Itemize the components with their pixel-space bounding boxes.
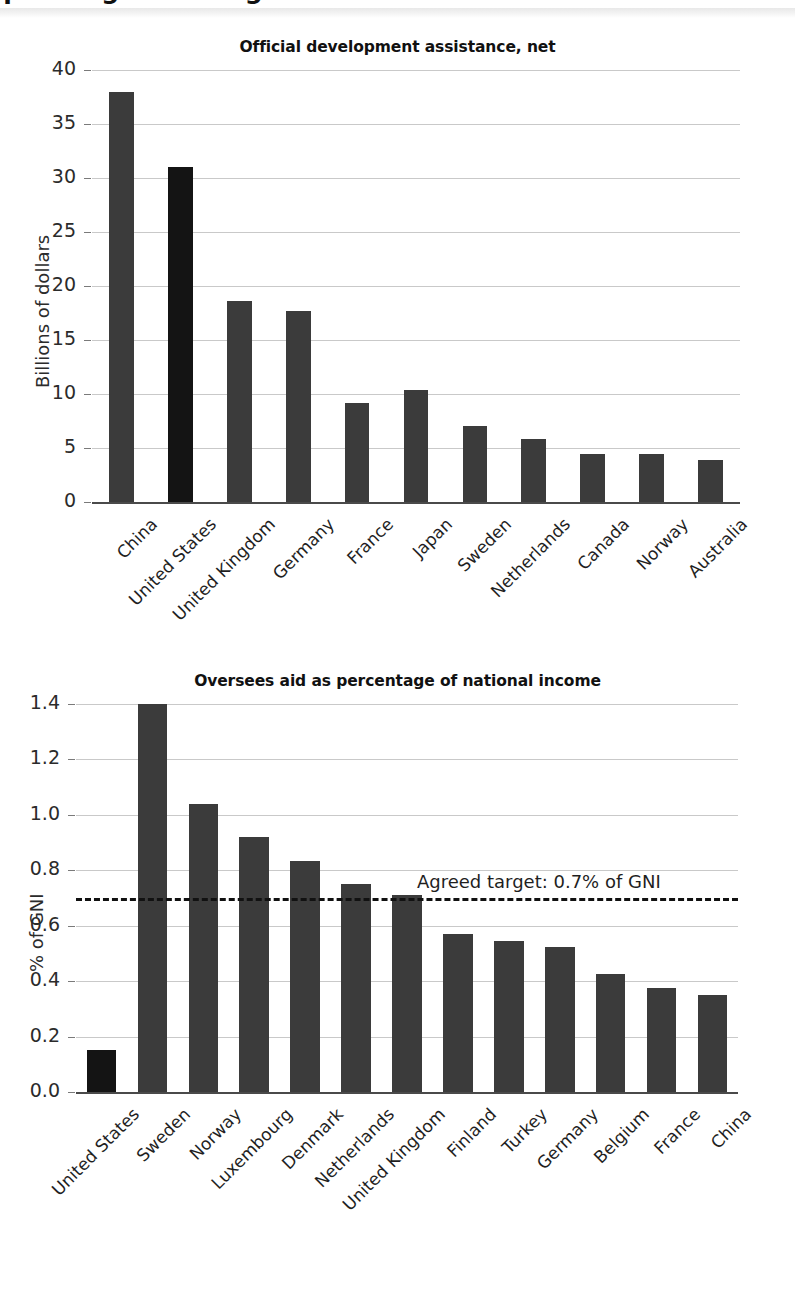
chart-overseas-aid-percentage: Oversees aid as percentage of national i… — [0, 672, 795, 1282]
y-axis-tick-mark — [84, 448, 91, 449]
y-axis-tick-label: 10 — [14, 381, 76, 403]
bar — [443, 934, 473, 1092]
bar — [109, 92, 134, 502]
y-axis-tick-mark — [84, 70, 91, 71]
gridline — [92, 70, 740, 71]
y-axis-tick-mark — [68, 704, 75, 705]
chart-page: Spending on Foreign Aid Official develop… — [0, 0, 795, 1291]
chart-official-development-assistance: Official development assistance, net Bil… — [0, 38, 795, 638]
bar — [392, 895, 422, 1092]
bar — [647, 988, 677, 1092]
y-axis-tick-label: 1.2 — [0, 746, 60, 768]
gridline — [92, 124, 740, 125]
bar — [698, 995, 728, 1092]
y-axis-tick-mark — [68, 1037, 75, 1038]
bar — [345, 403, 370, 502]
chart-2-title: Oversees aid as percentage of national i… — [0, 672, 795, 690]
chart-2-plot-area: 0.00.20.40.60.81.01.21.4United StatesSwe… — [76, 704, 738, 1092]
target-reference-line — [76, 898, 738, 901]
y-axis-tick-mark — [68, 870, 75, 871]
y-axis-tick-label: 0.4 — [0, 968, 60, 990]
y-axis-tick-label: 40 — [14, 57, 76, 79]
bar — [341, 884, 371, 1092]
target-annotation-label: Agreed target: 0.7% of GNI — [417, 871, 661, 892]
bar — [239, 837, 269, 1092]
y-axis-tick-label: 5 — [14, 435, 76, 457]
bar — [463, 426, 488, 502]
gridline — [76, 704, 738, 705]
bar — [580, 454, 605, 502]
banner-shade — [0, 8, 795, 18]
y-axis-tick-label: 0.8 — [0, 857, 60, 879]
y-axis-tick-mark — [84, 232, 91, 233]
y-axis-tick-mark — [68, 981, 75, 982]
y-axis-tick-label: 0.0 — [0, 1079, 60, 1101]
x-axis-line — [92, 502, 740, 504]
y-axis-tick-mark — [68, 815, 75, 816]
y-axis-tick-label: 0 — [14, 489, 76, 511]
bar — [596, 974, 626, 1092]
y-axis-tick-mark — [84, 394, 91, 395]
y-axis-tick-mark — [84, 124, 91, 125]
bar — [404, 390, 429, 502]
bar — [227, 301, 252, 502]
bar — [189, 804, 219, 1092]
y-axis-tick-label: 30 — [14, 165, 76, 187]
y-axis-tick-label: 0.6 — [0, 913, 60, 935]
chart-1-y-axis-label: Billions of dollars — [32, 235, 53, 388]
y-axis-tick-label: 1.0 — [0, 802, 60, 824]
bar — [521, 439, 546, 502]
y-axis-tick-label: 25 — [14, 219, 76, 241]
gridline — [76, 759, 738, 760]
x-axis-line — [76, 1092, 738, 1094]
bar — [545, 947, 575, 1093]
bar — [494, 941, 524, 1092]
bar — [290, 861, 320, 1092]
chart-1-title: Official development assistance, net — [0, 38, 795, 56]
chart-1-plot-area: 0510152025303540ChinaUnited StatesUnited… — [92, 70, 740, 502]
bar — [168, 167, 193, 502]
y-axis-tick-label: 35 — [14, 111, 76, 133]
y-axis-tick-label: 1.4 — [0, 691, 60, 713]
y-axis-tick-mark — [84, 340, 91, 341]
bar — [87, 1050, 117, 1092]
y-axis-tick-mark — [84, 502, 91, 503]
y-axis-tick-mark — [68, 926, 75, 927]
page-title: Spending on Foreign Aid — [0, 0, 336, 5]
y-axis-tick-mark — [84, 178, 91, 179]
gridline — [76, 815, 738, 816]
page-banner: Spending on Foreign Aid — [0, 0, 795, 8]
bar — [698, 460, 723, 502]
bar — [286, 311, 311, 502]
y-axis-tick-label: 20 — [14, 273, 76, 295]
y-axis-tick-mark — [84, 286, 91, 287]
bar — [639, 454, 664, 502]
y-axis-tick-label: 15 — [14, 327, 76, 349]
y-axis-tick-mark — [68, 759, 75, 760]
y-axis-tick-label: 0.2 — [0, 1024, 60, 1046]
y-axis-tick-mark — [68, 1092, 75, 1093]
